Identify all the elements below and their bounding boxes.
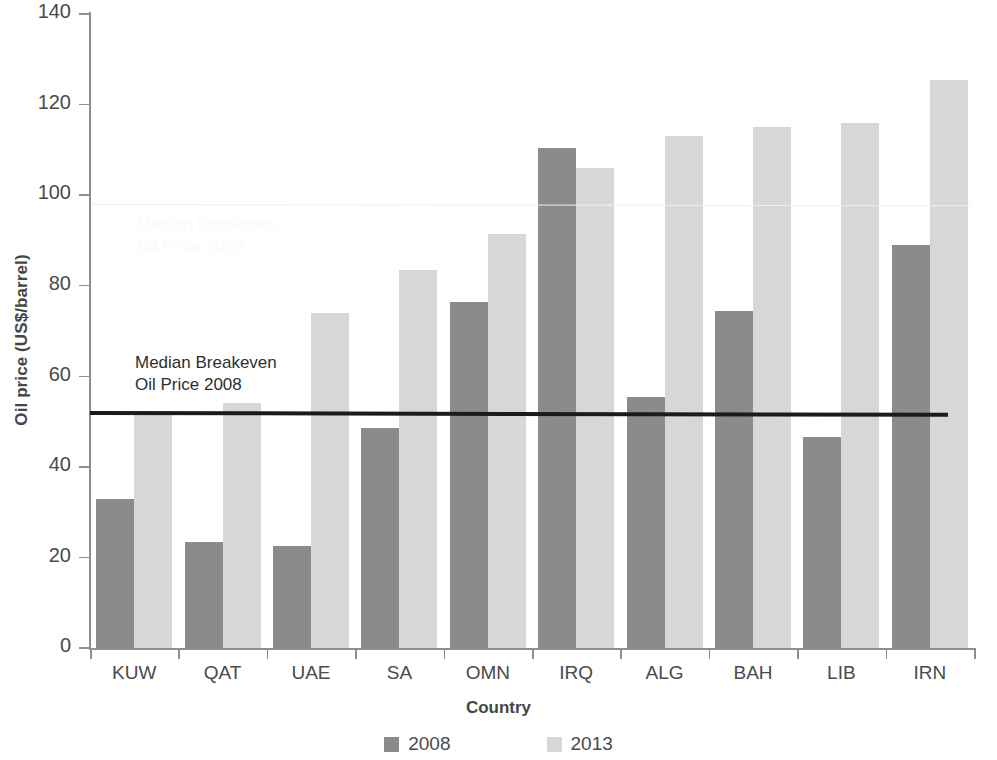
bar-UAE-2008 xyxy=(273,546,311,648)
x-label-IRN: IRN xyxy=(886,662,974,684)
x-label-KUW: KUW xyxy=(90,662,178,684)
y-tick-label: 100 xyxy=(38,181,71,204)
x-tick-OMN xyxy=(444,648,446,659)
bar-LIB-2008 xyxy=(803,437,841,648)
bar-OMN-2008 xyxy=(450,302,488,648)
bar-IRN-2008 xyxy=(892,245,930,648)
x-label-LIB: LIB xyxy=(797,662,885,684)
x-tick-ALG xyxy=(620,648,622,659)
median-annotation-2008: Median Breakeven Oil Price 2008 xyxy=(135,352,277,396)
y-tick-label: 20 xyxy=(49,544,71,567)
bar-SA-2013 xyxy=(399,270,437,648)
legend-swatch-2008 xyxy=(384,737,399,752)
x-label-UAE: UAE xyxy=(267,662,355,684)
legend-swatch-2013 xyxy=(547,737,562,752)
y-tick-label: 120 xyxy=(38,91,71,114)
y-tick-60: 60 xyxy=(79,376,90,378)
bar-ALG-2013 xyxy=(665,136,703,648)
bar-OMN-2013 xyxy=(488,234,526,648)
y-tick-100: 100 xyxy=(79,194,90,196)
median-annotation-2013: Median Breakeven Oil Price 2013 xyxy=(137,214,279,258)
x-tick-IRQ xyxy=(532,648,534,659)
x-label-ALG: ALG xyxy=(620,662,708,684)
bar-SA-2008 xyxy=(361,428,399,648)
y-tick-label: 40 xyxy=(49,453,71,476)
bar-BAH-2008 xyxy=(715,311,753,648)
x-axis-title: Country xyxy=(0,698,997,718)
y-tick-label: 80 xyxy=(49,272,71,295)
y-tick-120: 120 xyxy=(79,104,90,106)
bar-IRN-2013 xyxy=(930,80,968,648)
legend-label-2013: 2013 xyxy=(571,733,613,755)
x-label-SA: SA xyxy=(355,662,443,684)
y-tick-140: 140 xyxy=(79,13,90,15)
bar-KUW-2013 xyxy=(134,413,172,648)
x-tick-BAH xyxy=(709,648,711,659)
x-tick-SA xyxy=(355,648,357,659)
y-tick-label: 0 xyxy=(60,634,71,657)
x-label-BAH: BAH xyxy=(709,662,797,684)
y-tick-label: 60 xyxy=(49,363,71,386)
legend-item-2008[interactable]: 2008 xyxy=(384,733,450,755)
x-tick-LIB xyxy=(797,648,799,659)
legend-label-2008: 2008 xyxy=(408,733,450,755)
bar-KUW-2008 xyxy=(96,499,134,648)
y-tick-0: 0 xyxy=(79,647,90,649)
bar-QAT-2008 xyxy=(185,542,223,648)
y-tick-label: 140 xyxy=(38,0,71,23)
x-tick-UAE xyxy=(267,648,269,659)
legend-item-2013[interactable]: 2013 xyxy=(547,733,613,755)
plot-area xyxy=(90,14,974,648)
chart-legend: 20082013 xyxy=(0,733,997,755)
bar-IRQ-2013 xyxy=(576,168,614,648)
y-axis-title: Oil price (US$/barrel) xyxy=(12,240,32,440)
x-tick-QAT xyxy=(178,648,180,659)
x-label-IRQ: IRQ xyxy=(532,662,620,684)
bar-ALG-2008 xyxy=(627,397,665,648)
y-tick-80: 80 xyxy=(79,285,90,287)
x-tick-IRN xyxy=(886,648,888,659)
x-tick-KUW xyxy=(90,648,92,659)
x-label-OMN: OMN xyxy=(444,662,532,684)
bar-LIB-2013 xyxy=(841,123,879,648)
y-tick-40: 40 xyxy=(79,466,90,468)
bar-chart: Oil price (US$/barrel) 14012010080604020… xyxy=(0,0,997,760)
bar-UAE-2013 xyxy=(311,313,349,648)
bar-IRQ-2008 xyxy=(538,148,576,648)
x-tick-end xyxy=(974,648,976,659)
y-tick-20: 20 xyxy=(79,557,90,559)
bar-QAT-2013 xyxy=(223,403,261,648)
x-label-QAT: QAT xyxy=(178,662,266,684)
